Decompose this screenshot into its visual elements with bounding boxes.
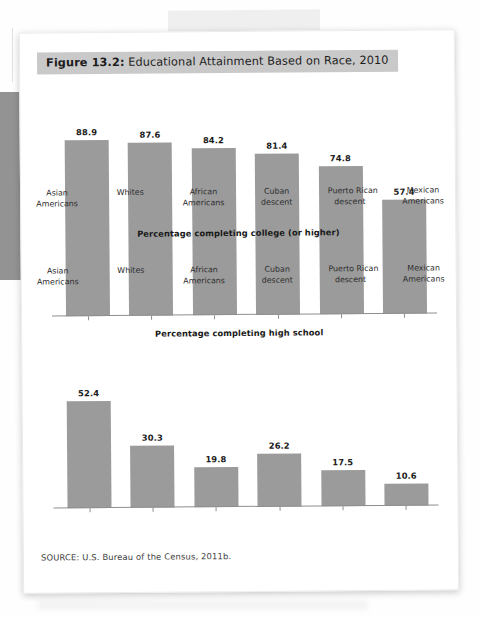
- bar: [321, 470, 365, 506]
- background-left-rule: [12, 28, 13, 82]
- category-label: AfricanAmericans: [182, 265, 226, 287]
- category-label: Whites: [108, 188, 152, 210]
- category-label: MexicanAmericans: [401, 185, 445, 207]
- bar: [194, 467, 238, 508]
- tick-slot: [384, 506, 428, 510]
- axis-tick: [406, 506, 407, 510]
- category-label: AsianAmericans: [36, 266, 80, 288]
- tick-slot: [129, 316, 173, 320]
- caption-high-school: Percentage completing high school: [22, 326, 456, 339]
- bar-value-label: 17.5: [332, 458, 353, 468]
- source-note: SOURCE: U.S. Bureau of the Census, 2011b…: [41, 551, 231, 562]
- category-label-line1: Mexican: [407, 185, 440, 194]
- tick-slot: [320, 314, 364, 318]
- bar-slot: 19.8: [193, 357, 238, 507]
- category-label-line2: Americans: [182, 276, 226, 287]
- category-label-line1: African: [190, 187, 218, 196]
- bar-slot: 52.4: [66, 358, 111, 508]
- category-label-line2: descent: [255, 275, 299, 286]
- background-top-highlight-band: [168, 9, 320, 32]
- bar-slot: 10.6: [383, 356, 428, 506]
- bar-value-label: 10.6: [396, 471, 417, 481]
- bar: [67, 401, 112, 508]
- axis-tick: [341, 314, 342, 318]
- tick-slot: [321, 506, 365, 510]
- bar: [257, 453, 301, 507]
- axis-tick: [88, 316, 89, 320]
- tick-slot: [131, 508, 175, 512]
- scanned-page-screenshot: Figure 13.2: Educational Attainment Base…: [0, 0, 480, 618]
- bar: [384, 484, 428, 506]
- plot-area-college: 52.430.319.826.217.510.6: [52, 355, 438, 508]
- tick-slot: [383, 314, 427, 318]
- bar-slot: 26.2: [257, 357, 302, 507]
- figure-page-card: Figure 13.2: Educational Attainment Base…: [19, 29, 459, 593]
- background-bottom-smudge: [38, 600, 368, 610]
- category-label: Cubandescent: [255, 265, 299, 287]
- bar-group-college: 52.430.319.826.217.510.6: [66, 356, 428, 509]
- axis-tick: [216, 507, 217, 511]
- bar-slot: 17.5: [320, 356, 365, 506]
- category-labels-college: AsianAmericansWhitesAfricanAmericansCuba…: [35, 185, 445, 210]
- category-label-line1: Cuban: [264, 187, 289, 196]
- bar-slot: 30.3: [130, 358, 175, 508]
- axis-tick: [152, 508, 153, 512]
- category-label-line1: Whites: [117, 188, 144, 197]
- category-label-line2: descent: [328, 197, 372, 208]
- figure-title-text: Educational Attainment Based on Race, 20…: [124, 54, 388, 69]
- category-label: AsianAmericans: [35, 188, 79, 210]
- category-label: Whites: [109, 266, 153, 288]
- category-label-line1: Whites: [117, 266, 144, 275]
- category-label: Cubandescent: [255, 187, 299, 209]
- axis-tick: [151, 316, 152, 320]
- axis-tick: [343, 506, 344, 510]
- category-label-line2: descent: [255, 197, 299, 208]
- category-label-line2: Americans: [35, 199, 79, 210]
- axis-tick: [89, 508, 90, 512]
- category-label-line1: African: [190, 265, 218, 274]
- figure-number: Figure 13.2:: [46, 56, 125, 70]
- bar-value-label: 52.4: [78, 389, 99, 399]
- figure-title: Figure 13.2: Educational Attainment Base…: [37, 50, 398, 75]
- bar: [130, 446, 174, 508]
- category-label: AfricanAmericans: [181, 187, 225, 209]
- tick-slot: [68, 508, 112, 512]
- category-label: Puerto Ricandescent: [328, 264, 372, 286]
- category-label-line1: Mexican: [407, 263, 440, 272]
- category-label-line1: Asian: [46, 188, 68, 197]
- category-label-line1: Puerto Rican: [328, 264, 378, 273]
- bar: [382, 200, 427, 314]
- category-label-line2: Americans: [402, 274, 446, 285]
- axis-tick: [279, 507, 280, 511]
- axis-tick: [214, 315, 215, 319]
- tick-slot: [256, 315, 300, 319]
- category-label-line2: descent: [328, 275, 372, 286]
- bar-value-label: 87.6: [139, 129, 160, 139]
- chart-college: 52.430.319.826.217.510.6: [52, 355, 438, 508]
- category-label: Puerto Ricandescent: [328, 186, 372, 208]
- tick-slot: [66, 316, 110, 320]
- tick-slot: [193, 315, 237, 319]
- bar-value-label: 81.4: [266, 140, 287, 150]
- category-label-line1: Puerto Rican: [328, 186, 378, 195]
- bar-value-label: 30.3: [142, 433, 163, 443]
- category-label-line2: Americans: [181, 198, 225, 209]
- bar-value-label: 84.2: [203, 135, 224, 145]
- axis-tick: [404, 314, 405, 318]
- axis-tick: [278, 315, 279, 319]
- category-label-line1: Asian: [47, 266, 69, 275]
- tick-slot: [258, 507, 302, 511]
- category-labels-high-school: AsianAmericansWhitesAfricanAmericansCuba…: [36, 263, 446, 288]
- tick-slot: [194, 507, 238, 511]
- category-label-line2: Americans: [36, 277, 80, 288]
- bar-value-label: 88.9: [76, 127, 97, 137]
- bar-value-label: 26.2: [269, 440, 290, 450]
- bar-value-label: 74.8: [330, 153, 351, 163]
- category-label-line2: Americans: [401, 196, 445, 207]
- bar-value-label: 19.8: [205, 454, 226, 464]
- category-label: MexicanAmericans: [402, 263, 446, 285]
- category-label-line1: Cuban: [265, 265, 290, 274]
